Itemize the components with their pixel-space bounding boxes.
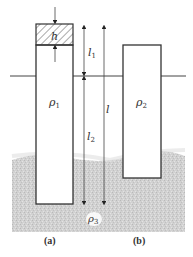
caption-a: (a): [44, 235, 56, 247]
label-l: l: [106, 103, 110, 116]
label-h: h: [51, 30, 58, 43]
caption-b: (b): [133, 235, 145, 247]
label-l1: l1: [88, 46, 96, 60]
label-l2: l2: [87, 130, 95, 144]
block-a: [36, 45, 73, 204]
block-b: [123, 45, 161, 178]
floating-blocks-diagram: h l1 l2 l ρ1 ρ2 ρ3 (a) (b): [0, 0, 193, 257]
